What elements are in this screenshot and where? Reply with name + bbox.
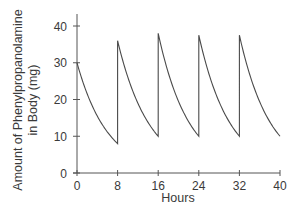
x-axis-label: Hours (161, 191, 194, 205)
y-tick-label: 40 (54, 20, 68, 34)
data-line (77, 33, 280, 143)
y-tick-label: 0 (60, 167, 67, 181)
x-tick-label: 32 (233, 179, 247, 193)
y-axis-label-line-2: in Body (mg) (26, 65, 40, 136)
axes (73, 14, 280, 173)
y-tick-label: 20 (54, 93, 68, 107)
y-axis-label: Amount of Phenylpropanolamine in Body (m… (11, 9, 40, 190)
x-tick-label: 8 (114, 179, 121, 193)
plot-area (77, 33, 280, 143)
x-tick-label: 0 (74, 179, 81, 193)
x-tick-label: 40 (273, 179, 287, 193)
chart: 010203040 0816243240 Hours Amount of Phe… (0, 0, 295, 220)
y-tick-label: 30 (54, 56, 68, 70)
y-axis-ticks: 010203040 (54, 20, 80, 181)
y-axis-label-line-1: Amount of Phenylpropanolamine (11, 9, 25, 190)
y-tick-label: 10 (54, 130, 68, 144)
